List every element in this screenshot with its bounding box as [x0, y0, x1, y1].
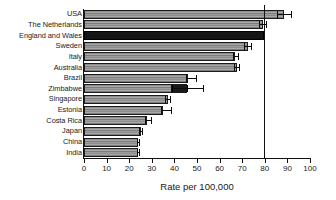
bar	[84, 116, 147, 125]
error-bar-cap-high	[266, 21, 267, 28]
error-bar-cap-high	[142, 128, 143, 135]
error-bar-cap-high	[203, 85, 204, 92]
bar-chart: USAThe NetherlandsEngland and WalesSwede…	[0, 0, 336, 200]
error-bar-cap-high	[251, 43, 252, 50]
y-axis-label: The Netherlands	[0, 21, 82, 29]
y-axis-label: China	[0, 138, 82, 146]
bar	[84, 148, 138, 157]
y-axis-label: Estonia	[0, 106, 82, 114]
error-bar-cap-low	[139, 128, 140, 135]
bar-row	[84, 138, 310, 147]
error-bar-cap-low	[161, 107, 162, 114]
error-bar-cap-high	[239, 64, 240, 71]
y-axis-label: England and Wales	[0, 32, 82, 40]
bar-row	[84, 116, 310, 125]
bar-row	[84, 20, 310, 29]
error-bar-cap-low	[277, 11, 278, 18]
x-axis-tick-label: 80	[260, 164, 269, 173]
bar	[84, 106, 163, 115]
bar-row	[84, 95, 310, 104]
x-axis-tick-label: 90	[283, 164, 292, 173]
x-axis-tick	[310, 159, 311, 163]
x-axis-tick	[287, 159, 288, 163]
error-bar-cap-high	[291, 11, 292, 18]
bar-row	[84, 127, 310, 136]
error-bar-cap-low	[165, 96, 166, 103]
reference-line	[264, 5, 265, 159]
error-bar-cap-high	[196, 75, 197, 82]
error-bar-cap-low	[137, 149, 138, 156]
error-bar-cap-low	[234, 64, 235, 71]
y-axis-label: Costa Rica	[0, 117, 82, 125]
y-axis-label: USA	[0, 10, 82, 18]
y-axis-label: Italy	[0, 53, 82, 61]
bar	[84, 63, 237, 72]
bar	[84, 127, 141, 136]
x-axis-tick-label: 0	[82, 164, 86, 173]
error-bar-cap-low	[186, 75, 187, 82]
x-axis-tick	[220, 159, 221, 163]
x-axis-tick-label: 30	[147, 164, 156, 173]
error-bar-line	[244, 46, 251, 47]
x-axis-tick	[152, 159, 153, 163]
y-axis-label: Sweden	[0, 42, 82, 50]
bar-row	[84, 31, 310, 40]
y-axis-label: Singapore	[0, 95, 82, 103]
error-bar-cap-low	[233, 53, 234, 60]
bar-row	[84, 10, 310, 19]
error-bar-cap-low	[137, 139, 138, 146]
x-axis-title: Rate per 100,000	[84, 181, 310, 192]
error-bar-cap-high	[151, 117, 152, 124]
x-axis-tick-label: 100	[303, 164, 316, 173]
bar-row	[84, 106, 310, 115]
bar	[84, 138, 138, 147]
bar-row	[84, 148, 310, 157]
x-axis-tick-label: 10	[102, 164, 111, 173]
x-axis-tick	[174, 159, 175, 163]
error-bar-cap-low	[145, 117, 146, 124]
error-bar-cap-high	[238, 53, 239, 60]
bar-row	[84, 42, 310, 51]
x-axis-tick	[265, 159, 266, 163]
x-axis-tick-label: 60	[215, 164, 224, 173]
y-axis-label: Australia	[0, 64, 82, 72]
bar-row	[84, 63, 310, 72]
y-axis-label: India	[0, 149, 82, 157]
bar	[84, 31, 264, 40]
error-bar-cap-low	[171, 85, 172, 92]
error-bar-line	[259, 24, 266, 25]
y-axis-label: Zimbabwe	[0, 85, 82, 93]
bar	[84, 74, 188, 83]
error-bar-line	[186, 78, 196, 79]
error-bar-cap-high	[171, 107, 172, 114]
y-axis-label: Japan	[0, 127, 82, 135]
error-bar-cap-low	[259, 21, 260, 28]
bar	[84, 20, 263, 29]
error-bar-cap-high	[139, 149, 140, 156]
x-axis-tick	[242, 159, 243, 163]
y-axis-label: Brazil	[0, 74, 82, 82]
x-axis-tick-label: 20	[125, 164, 134, 173]
error-bar-line	[277, 14, 291, 15]
bar-row	[84, 74, 310, 83]
error-bar-cap-high	[170, 96, 171, 103]
error-bar-line	[171, 88, 203, 89]
bar-row	[84, 52, 310, 61]
x-axis-tick	[129, 159, 130, 163]
bar	[84, 95, 168, 104]
error-bar-cap-low	[244, 43, 245, 50]
x-axis-tick	[84, 159, 85, 163]
x-axis-tick-label: 40	[170, 164, 179, 173]
x-axis-tick	[107, 159, 108, 163]
bar	[84, 42, 248, 51]
error-bar-cap-high	[139, 139, 140, 146]
bar	[84, 52, 235, 61]
bar	[84, 10, 284, 19]
plot-area: 0102030405060708090100	[84, 9, 310, 158]
x-axis-tick-label: 50	[193, 164, 202, 173]
bar-row	[84, 84, 310, 93]
x-axis-tick-label: 70	[238, 164, 247, 173]
x-axis-tick	[197, 159, 198, 163]
error-bar-line	[161, 110, 171, 111]
